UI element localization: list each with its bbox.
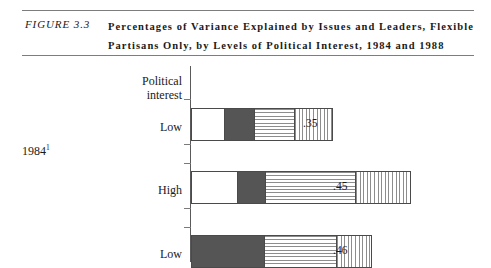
bar-value-label: .45	[333, 180, 347, 192]
bar-value-label: .46	[333, 244, 347, 256]
header-rule-top	[22, 10, 474, 11]
axis-header-label: Political interest	[142, 74, 182, 102]
header-rule-bottom	[22, 55, 474, 56]
period-label-text: 1984	[22, 144, 46, 158]
axis-tick	[184, 227, 191, 228]
category-label-high-1984: High	[158, 183, 182, 197]
period-label: 19841	[22, 144, 50, 159]
axis-tick	[184, 99, 191, 100]
axis-header-line-1: Political	[142, 74, 182, 88]
bar-value-label: .35	[303, 117, 317, 129]
period-label-superscript: 1	[46, 143, 50, 152]
category-label-low-1984-low: Low	[160, 120, 182, 134]
axis-tick	[184, 208, 191, 209]
figure-number-label: FIGURE 3.3	[25, 18, 90, 30]
bar-segment-white	[192, 172, 237, 203]
figure-title: Percentages of Variance Explained by Iss…	[108, 17, 476, 55]
category-label-low-1988: Low	[160, 247, 182, 261]
bar-segment-dark	[192, 236, 264, 267]
figure-title-line-2: Partisans Only, by Levels of Political I…	[108, 36, 476, 55]
figure-chart: 19841 Political interest Low High Low .3…	[0, 60, 491, 262]
axis-header-line-2: interest	[142, 88, 182, 102]
bar-row	[191, 171, 411, 204]
bar-segment-hstripe	[264, 236, 336, 267]
bar-segment-vstripe	[355, 172, 410, 203]
bar-segment-white	[192, 109, 224, 140]
bar-segment-dark	[237, 172, 265, 203]
figure-title-line-1: Percentages of Variance Explained by Iss…	[108, 17, 476, 36]
axis-tick	[184, 144, 191, 145]
bar-segment-dark	[224, 109, 254, 140]
y-axis-line	[190, 66, 191, 262]
bar-segment-hstripe	[254, 109, 294, 140]
axis-tick	[184, 163, 191, 164]
